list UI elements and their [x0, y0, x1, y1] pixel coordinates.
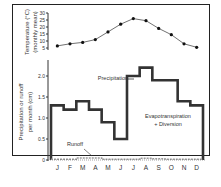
month-label: A	[93, 164, 98, 171]
svg-text:10: 10	[39, 38, 45, 44]
svg-text:0.5: 0.5	[38, 136, 45, 142]
runoff-annotation: Runoff	[67, 141, 84, 147]
svg-text:1.0: 1.0	[38, 115, 45, 121]
precip-axis-label: Precipitation or runoff	[18, 83, 24, 140]
month-label: M	[105, 164, 110, 171]
svg-text:25: 25	[39, 17, 45, 23]
temperature-point	[106, 30, 109, 33]
precipitation-annotation: Precipitation	[98, 75, 128, 81]
temperature-point	[182, 42, 185, 45]
month-label: J	[132, 164, 135, 171]
temperature-point	[94, 38, 97, 41]
climate-chart: 51015202530Temperature (°C)(monthly mean…	[0, 0, 221, 187]
temp-axis-label: Temperature (°C)	[24, 9, 30, 55]
month-label: S	[156, 164, 161, 171]
temp-axis-sublabel: (monthly mean)	[32, 11, 38, 53]
precip-axis-sublabel: per month (cm)	[27, 92, 33, 133]
temperature-point	[157, 27, 160, 30]
et-annotation-2: + Diversion	[154, 121, 182, 127]
temperature-point	[56, 44, 59, 47]
runoff-line	[51, 158, 203, 159]
month-label: O	[169, 164, 174, 171]
temperature-point	[68, 42, 71, 45]
month-label: A	[144, 164, 149, 171]
svg-text:15: 15	[39, 31, 45, 37]
temperature-point	[195, 46, 198, 49]
month-label: J	[119, 164, 122, 171]
svg-text:1.5: 1.5	[38, 94, 45, 100]
svg-text:5: 5	[42, 45, 45, 51]
et-annotation: Evapotranspiration	[145, 113, 191, 119]
temperature-point	[119, 23, 122, 26]
temperature-point	[144, 19, 147, 22]
svg-text:2.0: 2.0	[38, 73, 45, 79]
svg-text:0: 0	[42, 157, 45, 163]
month-label: M	[80, 164, 85, 171]
month-label: J	[56, 164, 59, 171]
month-label: D	[194, 164, 199, 171]
temperature-line	[57, 19, 196, 48]
temperature-point	[170, 33, 173, 36]
temperature-point	[81, 41, 84, 44]
svg-text:30: 30	[39, 10, 45, 16]
month-label: F	[68, 164, 72, 171]
temperature-point	[132, 17, 135, 20]
svg-text:20: 20	[39, 24, 45, 30]
month-label: N	[182, 164, 187, 171]
